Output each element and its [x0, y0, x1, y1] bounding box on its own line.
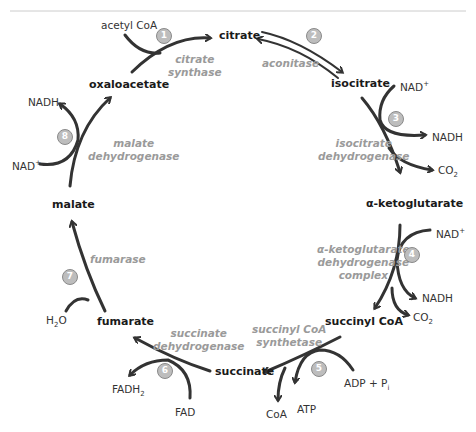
enzyme-alpha-ketoglutarate-dehydrogenase-complex: α-ketoglutaratedehydrogenasecomplex: [317, 243, 410, 282]
enzyme-malate-dehydrogenase: malatedehydrogenase: [88, 137, 179, 163]
cofactor-nadh-8: NADH: [28, 96, 59, 108]
step-8-badge: 8: [57, 129, 73, 145]
cofactor-nadh-4: NADH: [422, 292, 453, 304]
cofactor-co2-4: CO2: [413, 311, 433, 328]
metabolite-malate: malate: [52, 199, 95, 211]
enzyme-fumarase: fumarase: [90, 253, 146, 266]
step-5-badge: 5: [311, 361, 327, 377]
cofactor-fadh2: FADH2: [112, 383, 145, 400]
cofactor-coa: CoA: [266, 408, 287, 420]
cofactor-co2-3: CO2: [438, 164, 458, 181]
metabolite-oxaloacetate: oxaloacetate: [89, 79, 169, 91]
cofactor-h2o: H2O: [46, 314, 67, 331]
cofactor-nad-4: NAD+: [436, 225, 465, 240]
step-7-badge: 7: [62, 269, 78, 285]
step-4-badge: 4: [404, 247, 420, 263]
step-2-badge: 2: [306, 28, 322, 44]
citric-acid-cycle-diagram: citrate isocitrate α-ketoglutarate succi…: [0, 0, 476, 432]
enzyme-succinate-dehydrogenase: succinatedehydrogenase: [153, 327, 244, 353]
step-3-badge: 3: [388, 111, 404, 127]
enzyme-isocitrate-dehydrogenase: isocitratedehydrogenase: [318, 137, 409, 163]
enzyme-succinyl-coa-synthetase: succinyl CoAsynthetase: [252, 323, 326, 349]
cofactor-nadh-3: NADH: [432, 131, 463, 143]
cofactor-nad-8: NAD+: [12, 157, 41, 172]
cofactor-atp: ATP: [297, 403, 316, 415]
enzyme-citrate-synthase: citratesynthase: [168, 53, 222, 79]
metabolite-fumarate: fumarate: [97, 316, 154, 328]
step-6-badge: 6: [157, 363, 173, 379]
step-1-badge: 1: [156, 28, 172, 44]
metabolite-citrate: citrate: [219, 30, 260, 42]
metabolite-succinyl-coa: succinyl CoA: [325, 316, 403, 328]
enzyme-aconitase: aconitase: [262, 57, 319, 70]
metabolite-alpha-ketoglutarate: α-ketoglutarate: [366, 198, 463, 210]
cofactor-nad-3: NAD+: [400, 78, 429, 93]
metabolite-isocitrate: isocitrate: [331, 78, 390, 90]
cofactor-adp-pi: ADP + Pi: [344, 377, 389, 394]
cofactor-fad: FAD: [175, 406, 195, 418]
metabolite-succinate: succinate: [215, 366, 274, 378]
cofactor-acetyl-coa: acetyl CoA: [101, 19, 157, 31]
